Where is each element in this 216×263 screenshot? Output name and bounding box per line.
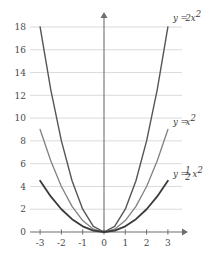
y-axis-tick-label: 14 <box>15 68 27 78</box>
y-axis-tick-label: 8 <box>20 136 26 146</box>
gridlines-group <box>30 27 182 209</box>
y-axis-tick-labels-group: 024681012141618 <box>15 22 27 237</box>
curve-label-0: y =2x2 <box>172 9 201 23</box>
x-axis-tick-label: 0 <box>101 238 107 248</box>
x-axis-arrow-icon <box>182 229 188 236</box>
curve-label-exponent: 2 <box>196 165 202 175</box>
chart-canvas: 024681012141618 -3-2-10123 y =2x2y =x2y … <box>0 0 216 263</box>
parabola-comparison-figure: 024681012141618 -3-2-10123 y =2x2y =x2y … <box>0 0 216 263</box>
y-axis-tick-label: 4 <box>20 182 26 192</box>
curve-label-fraction-denominator: 2 <box>184 172 190 182</box>
y-axis-tick-label: 6 <box>20 159 26 169</box>
y-axis-tick-label: 16 <box>15 45 27 55</box>
x-axis-tick-label: -1 <box>78 238 87 248</box>
y-axis-arrow-icon <box>101 12 108 18</box>
x-axis-tick-label: 2 <box>144 238 150 248</box>
curve-label-exponent: 2 <box>189 113 195 123</box>
y-axis-tick-label: 12 <box>15 91 26 101</box>
curve-label-2: y =12x2 <box>172 165 203 183</box>
x-axis-tick-label: -3 <box>36 238 45 248</box>
x-axis-tick-label: -2 <box>57 238 66 248</box>
curve-label-exponent: 2 <box>195 9 201 19</box>
x-axis-tick-label: 1 <box>122 238 128 248</box>
y-axis-tick-label: 0 <box>20 227 26 237</box>
y-axis-tick-label: 10 <box>15 113 27 123</box>
curve-label-1: y =x2 <box>172 113 196 127</box>
x-axis-tick-label: 3 <box>165 238 171 248</box>
y-axis-tick-label: 18 <box>15 22 27 32</box>
x-axis-tick-labels-group: -3-2-10123 <box>36 238 171 248</box>
y-axis-tick-label: 2 <box>20 204 26 214</box>
